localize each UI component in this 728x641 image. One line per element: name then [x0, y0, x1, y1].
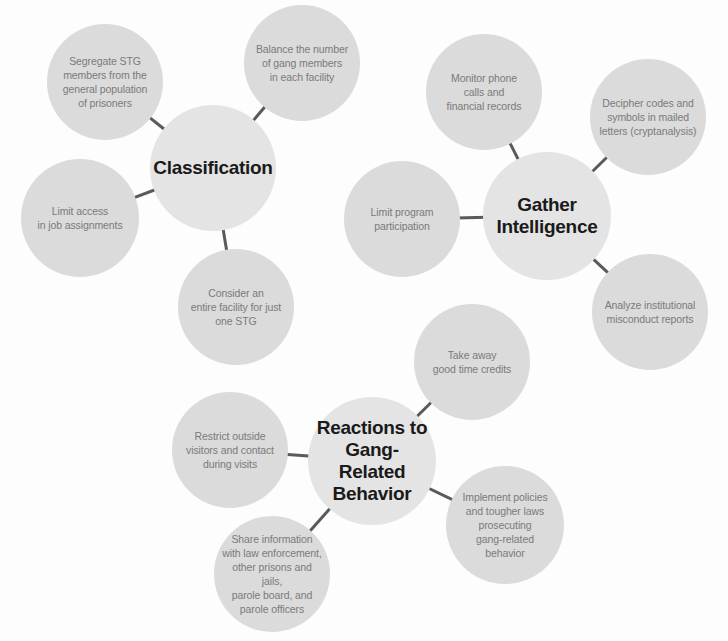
leaf-analyze-misconduct: Analyze institutional misconduct reports — [592, 254, 708, 370]
leaf-implement-policies: Implement policies and tougher laws pros… — [446, 466, 564, 584]
leaf-label: Monitor phone calls and financial record… — [439, 71, 530, 113]
leaf-label: Restrict outside visitors and contact du… — [178, 429, 282, 471]
leaf-label: Analyze institutional misconduct reports — [597, 298, 704, 326]
leaf-label: Consider an entire facility for just one… — [183, 286, 289, 328]
leaf-label: Share information with law enforcement, … — [214, 532, 330, 616]
leaf-label: Limit access in job assignments — [29, 204, 130, 232]
connector-line — [308, 506, 332, 534]
leaf-label: Implement policies and tougher laws pros… — [454, 490, 555, 560]
leaf-take-away-credits: Take away good time credits — [414, 304, 530, 420]
leaf-label: Segregate STG members from the general p… — [55, 54, 156, 110]
leaf-label: Limit program participation — [363, 205, 442, 233]
leaf-segregate-stg: Segregate STG members from the general p… — [47, 24, 163, 140]
hub-label: Gather Intelligence — [491, 194, 604, 238]
hub-classification: Classification — [150, 105, 276, 231]
leaf-entire-facility: Consider an entire facility for just one… — [178, 249, 294, 365]
leaf-balance-gang-members: Balance the number of gang members in ea… — [244, 5, 360, 121]
leaf-limit-program: Limit program participation — [344, 161, 460, 277]
leaf-share-information: Share information with law enforcement, … — [214, 516, 330, 632]
hub-reactions: Reactions to Gang-Related Behavior — [308, 397, 436, 525]
leaf-label: Balance the number of gang members in ea… — [248, 42, 356, 84]
hub-label: Reactions to Gang-Related Behavior — [308, 417, 436, 505]
leaf-decipher-codes: Decipher codes and symbols in mailed let… — [590, 59, 706, 175]
leaf-label: Decipher codes and symbols in mailed let… — [592, 96, 705, 138]
hub-gather-intelligence: Gather Intelligence — [483, 152, 611, 280]
hub-label: Classification — [147, 157, 278, 179]
leaf-restrict-visitors: Restrict outside visitors and contact du… — [172, 392, 288, 508]
leaf-monitor-phone: Monitor phone calls and financial record… — [426, 34, 542, 150]
leaf-label: Take away good time credits — [425, 348, 519, 376]
diagram-canvas: Classification Segregate STG members fro… — [0, 0, 728, 641]
leaf-limit-job-access: Limit access in job assignments — [21, 159, 139, 277]
